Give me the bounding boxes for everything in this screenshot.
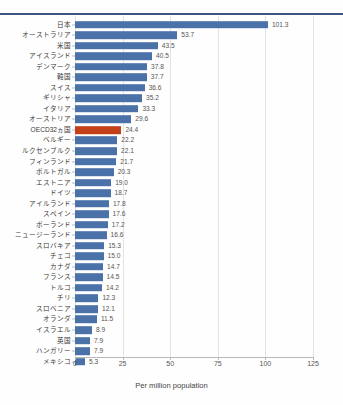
bar-value-label: 8.9 <box>96 327 105 334</box>
bar <box>75 31 177 39</box>
bar <box>75 337 90 345</box>
category-label: カナダ <box>50 264 71 271</box>
bar-row: 英国7.9 <box>0 335 343 346</box>
x-tick-label-100: 100 <box>260 360 272 367</box>
bar-row: スペイン17.6 <box>0 209 343 220</box>
bar-row: ルクセンブルク22.1 <box>0 146 343 157</box>
category-label: トルコ <box>50 285 71 292</box>
bar-value-label: 20.3 <box>118 169 131 176</box>
bar <box>75 284 102 292</box>
bar-value-label: 17.6 <box>113 211 126 218</box>
bar-row: フィンランド21.7 <box>0 156 343 167</box>
bar-value-label: 12.3 <box>102 295 115 302</box>
category-label: エストニア <box>36 179 71 186</box>
bar-value-label: 14.5 <box>107 274 120 281</box>
x-axis-label: Per million population <box>0 381 343 390</box>
bar-value-label: 16.6 <box>111 232 124 239</box>
category-label: ポーランド <box>36 221 71 228</box>
bar-value-label: 5.3 <box>89 358 98 365</box>
bar <box>75 147 117 155</box>
category-label: オランダ <box>43 316 71 323</box>
category-label: オーストラリア <box>22 32 71 39</box>
category-label: チリ <box>57 295 71 302</box>
x-tick-label-25: 25 <box>119 360 127 367</box>
bar-row: アイスランド40.5 <box>0 51 343 62</box>
category-label: スイス <box>50 85 71 92</box>
bar-row: イタリア33.3 <box>0 103 343 114</box>
bar <box>75 52 152 60</box>
bar <box>75 42 158 50</box>
bar-row: ポルトガル20.3 <box>0 167 343 178</box>
category-label: メキシコ <box>43 358 71 365</box>
category-label: 米国 <box>57 42 71 49</box>
x-tick-label-75: 75 <box>214 360 222 367</box>
bar-row: 米国43.5 <box>0 40 343 51</box>
bar-value-label: 43.5 <box>162 42 175 49</box>
bar <box>75 116 131 124</box>
category-label: アイスランド <box>29 53 71 60</box>
category-label: OECD32ヵ国 <box>31 127 71 134</box>
category-label: 韓国 <box>57 74 71 81</box>
bar-row: スロバキア15.3 <box>0 240 343 251</box>
bar-row: チェコ15.0 <box>0 251 343 262</box>
bar-row: オランダ11.5 <box>0 314 343 325</box>
bar-value-label: 7.9 <box>94 337 103 344</box>
bar <box>75 105 138 113</box>
bar-row: アイルランド17.8 <box>0 198 343 209</box>
category-label: スペイン <box>43 211 71 218</box>
category-label: スロベニア <box>36 306 71 313</box>
category-label: ハンガリー <box>36 348 71 355</box>
x-tick-label-50: 50 <box>166 360 174 367</box>
bar-value-label: 35.2 <box>146 95 159 102</box>
bar <box>75 189 111 197</box>
bar-row: ギリシャ35.2 <box>0 93 343 104</box>
bar <box>75 231 107 239</box>
bar-row: ニュージーランド16.6 <box>0 230 343 241</box>
category-label: ポルトガル <box>36 169 71 176</box>
bar-row: ベルギー22.2 <box>0 135 343 146</box>
bar-value-label: 7.9 <box>94 348 103 355</box>
bar-row: ドイツ18.7 <box>0 188 343 199</box>
bar-row: OECD32ヵ国24.4 <box>0 125 343 136</box>
bar-row: 韓国37.7 <box>0 72 343 83</box>
bar <box>75 73 147 81</box>
bar-highlighted <box>75 126 121 134</box>
bar-value-label: 12.1 <box>102 306 115 313</box>
bar-row: チリ12.3 <box>0 293 343 304</box>
bar <box>75 295 98 303</box>
bar <box>75 63 147 71</box>
top-divider-rule <box>0 13 343 15</box>
x-tick-label-125: 125 <box>307 360 319 367</box>
bar <box>75 179 111 187</box>
category-label: イタリア <box>43 106 71 113</box>
bar-value-label: 24.4 <box>125 127 138 134</box>
bar <box>75 347 90 355</box>
category-label: オーストリア <box>29 116 71 123</box>
bar-value-label: 37.7 <box>151 74 164 81</box>
bar <box>75 210 109 218</box>
bar <box>75 242 104 250</box>
bar-value-label: 15.0 <box>108 253 121 260</box>
bar-row: オーストラリア53.7 <box>0 30 343 41</box>
bar-value-label: 21.7 <box>120 158 133 165</box>
category-label: 英国 <box>57 337 71 344</box>
category-label: チェコ <box>50 253 71 260</box>
bar <box>75 263 103 271</box>
bar-value-label: 36.6 <box>149 85 162 92</box>
bar <box>75 305 98 313</box>
category-label: フランス <box>43 274 71 281</box>
bar-value-label: 18.7 <box>115 190 128 197</box>
bar-row: オーストリア29.6 <box>0 114 343 125</box>
bar <box>75 274 103 282</box>
bar-row: フランス14.5 <box>0 272 343 283</box>
bar-value-label: 33.3 <box>142 106 155 113</box>
bar <box>75 252 104 260</box>
bar-value-label: 11.5 <box>101 316 113 323</box>
bar-value-label: 17.8 <box>113 200 126 207</box>
bar-value-label: 22.2 <box>121 137 134 144</box>
category-label: スロバキア <box>36 242 71 249</box>
bar-row: スイス36.6 <box>0 82 343 93</box>
bar-row: エストニア19.0 <box>0 177 343 188</box>
bar <box>75 326 92 334</box>
bar-value-label: 101.3 <box>272 21 289 28</box>
